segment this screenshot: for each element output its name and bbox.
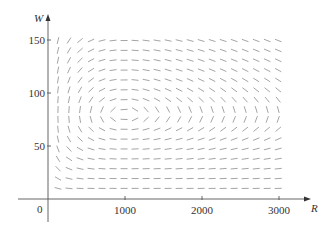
slope-segment <box>56 166 61 171</box>
slope-segment <box>165 138 172 140</box>
slope-segment <box>67 57 70 63</box>
slope-segment <box>275 138 281 141</box>
slope-segment <box>275 59 281 62</box>
slope-segment <box>99 79 105 82</box>
slope-segment <box>265 97 269 102</box>
slope-segment <box>77 178 84 179</box>
slope-segment <box>165 88 171 91</box>
slope-segment <box>66 188 73 189</box>
slope-segment <box>88 158 95 159</box>
slope-segment <box>79 116 80 123</box>
slope-segment <box>211 116 214 122</box>
slope-segment <box>69 106 70 113</box>
slope-segment <box>143 79 150 80</box>
slope-segment <box>187 97 192 102</box>
slope-segment <box>155 117 159 122</box>
slope-segment <box>88 78 94 82</box>
slope-segment <box>154 69 161 71</box>
slope-segment <box>132 108 138 112</box>
slope-segment <box>77 38 82 42</box>
slope-segment <box>210 97 215 102</box>
slope-segment <box>57 146 59 153</box>
slope-segment <box>58 96 59 103</box>
slope-segment <box>222 106 224 113</box>
slope-segment <box>55 188 62 190</box>
slope-segment <box>231 88 237 92</box>
slope-field-segments <box>55 37 282 189</box>
slope-segment <box>99 88 105 91</box>
slope-segment <box>264 148 271 150</box>
slope-segment <box>78 58 83 63</box>
slope-segment <box>165 59 172 61</box>
slope-segment <box>264 78 270 82</box>
slope-segment <box>198 78 204 81</box>
y-axis-arrow-icon <box>46 14 51 21</box>
slope-segment <box>90 106 92 113</box>
slope-segment <box>276 127 281 132</box>
slope-segment <box>55 177 61 181</box>
slope-segment <box>110 99 117 101</box>
slope-segment <box>143 139 150 140</box>
slope-segment <box>165 128 171 131</box>
slope-segment <box>132 139 139 140</box>
slope-segment <box>242 158 249 159</box>
slope-segment <box>176 49 183 51</box>
slope-segment <box>264 49 270 52</box>
slope-segment <box>143 60 150 61</box>
slope-segment <box>66 178 73 180</box>
slope-segment <box>100 116 103 122</box>
slope-segment <box>110 139 117 140</box>
slope-segment <box>187 49 194 51</box>
slope-segment <box>198 158 205 159</box>
slope-segment <box>275 148 282 150</box>
slope-segment <box>176 59 183 61</box>
slope-segment <box>88 137 94 140</box>
origin-label: 0 <box>37 203 43 215</box>
slope-segment <box>132 118 138 121</box>
slope-segment <box>198 168 205 169</box>
slope-segment <box>242 168 249 169</box>
slope-segment <box>99 59 106 61</box>
slope-segment <box>231 69 237 72</box>
slope-segment <box>67 136 70 142</box>
slope-segment <box>253 148 260 150</box>
slope-segment <box>277 116 279 123</box>
slope-segment <box>99 49 106 51</box>
slope-segment <box>253 39 260 41</box>
slope-segment <box>231 168 238 169</box>
slope-segment <box>176 69 183 71</box>
slope-segment <box>68 67 71 73</box>
slope-segment <box>275 168 282 169</box>
slope-segment <box>90 116 92 123</box>
slope-segment <box>110 70 117 71</box>
slope-segment <box>276 88 281 92</box>
slope-segment <box>110 117 116 121</box>
slope-segment <box>176 40 183 42</box>
slope-segment <box>211 106 213 113</box>
slope-segment <box>220 127 226 131</box>
slope-segment <box>231 148 238 150</box>
slope-segment <box>176 158 183 159</box>
slope-segment <box>187 158 194 159</box>
slope-segment <box>143 89 150 91</box>
slope-segment <box>209 148 216 149</box>
slope-segment <box>231 78 237 81</box>
slope-segment <box>165 69 172 71</box>
slope-segment <box>176 98 182 102</box>
slope-segment <box>198 148 205 149</box>
slope-segment <box>198 40 205 42</box>
slope-segment <box>187 69 194 71</box>
slope-segment <box>220 158 227 159</box>
slope-segment <box>198 49 205 51</box>
slope-segment <box>165 98 171 102</box>
slope-segment <box>231 158 238 159</box>
slope-segment <box>165 40 172 41</box>
slope-segment <box>78 87 82 93</box>
slope-segment <box>165 159 172 160</box>
slope-segment <box>132 129 139 130</box>
slope-segment <box>154 79 161 81</box>
slope-segment <box>220 138 227 140</box>
slope-segment <box>209 78 215 81</box>
slope-segment <box>110 79 117 80</box>
x-tick-label: 1000 <box>114 204 137 216</box>
